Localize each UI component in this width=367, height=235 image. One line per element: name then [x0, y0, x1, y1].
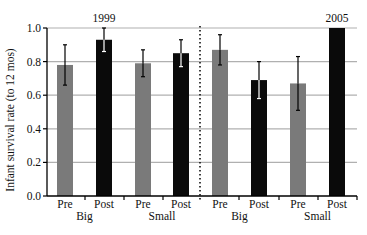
x-group-label: Big [231, 210, 248, 222]
bar-small-post [329, 28, 345, 196]
x-tick-label: Post [327, 198, 347, 210]
bar-chart: Infant survival rate (to 12 mos) 0.00.20… [0, 0, 367, 235]
y-tick-label: 0.8 [27, 56, 41, 68]
y-tick-label: 0.6 [27, 89, 41, 101]
bar-small-pre [135, 63, 151, 196]
x-tick-label: Pre [290, 198, 305, 210]
x-group-label: Small [304, 210, 331, 222]
y-tick-label: 0.0 [27, 190, 41, 202]
x-tick-label: Pre [57, 198, 72, 210]
x-group-label: Big [76, 210, 93, 222]
x-tick-label: Post [94, 198, 114, 210]
x-tick-label: Pre [212, 198, 227, 210]
x-group-label: Small [149, 210, 176, 222]
bar-big-pre [212, 50, 228, 196]
bar-big-post [96, 40, 112, 196]
bar-small-post [173, 53, 189, 196]
y-tick-label: 1.0 [27, 22, 41, 34]
x-tick-label: Post [171, 198, 191, 210]
year-annotation: 2005 [326, 12, 349, 24]
x-tick-label: Post [249, 198, 269, 210]
y-tick-label: 0.4 [27, 123, 41, 135]
year-annotation: 1999 [93, 12, 116, 24]
x-tick-label: Pre [135, 198, 150, 210]
y-tick-label: 0.2 [27, 156, 41, 168]
